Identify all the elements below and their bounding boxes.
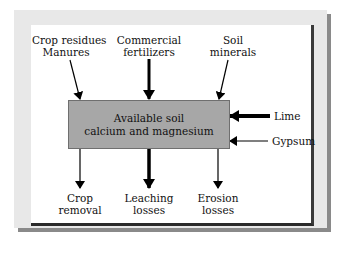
label-crop-removal: Crop removal	[55, 192, 105, 216]
center-line-2: calcium and magnesium	[84, 125, 213, 138]
label-erosion-losses: Erosion losses	[192, 192, 244, 216]
label-gypsum: Gypsum	[272, 135, 315, 147]
label-soil-minerals: Soil minerals	[205, 34, 261, 58]
arrow-soil-minerals	[219, 60, 228, 99]
label-commercial-fertilizers: Commercial fertilizers	[113, 34, 185, 58]
label-lime: Lime	[274, 110, 301, 122]
label-crop-residues: Crop residues Manures	[32, 34, 100, 58]
available-soil-calcium-magnesium-box: Available soil calcium and magnesium	[68, 100, 230, 149]
label-leaching-losses: Leaching losses	[121, 192, 177, 216]
center-line-1: Available soil	[84, 112, 213, 125]
arrow-crop-residues	[70, 60, 80, 99]
